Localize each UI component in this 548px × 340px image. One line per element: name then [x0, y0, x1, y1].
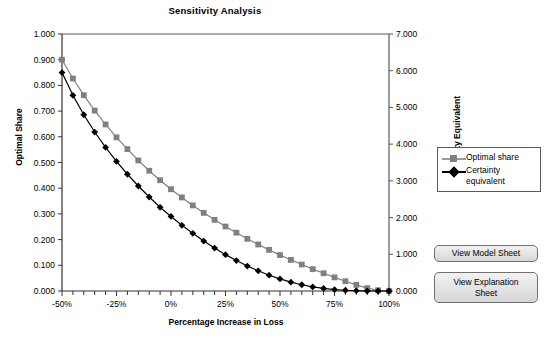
data-point-marker: [288, 279, 295, 286]
y-axis-right-tick-label: 3.000: [396, 176, 418, 186]
series-line: [62, 73, 389, 291]
data-point-marker: [168, 186, 174, 192]
sensitivity-analysis-chart: Sensitivity Analysis Optimal Share Certa…: [0, 0, 548, 340]
data-point-marker: [179, 195, 185, 201]
legend-item-optimal-share: Optimal share: [442, 152, 536, 164]
data-point-marker: [321, 270, 327, 276]
data-point-marker: [70, 76, 76, 82]
chart-legend: Optimal share Certainty equivalent: [437, 147, 541, 192]
y-axis-right-tick-label: 4.000: [396, 139, 418, 149]
legend-label-line2: equivalent: [466, 176, 505, 186]
data-point-marker: [353, 287, 360, 294]
y-axis-left-tick-label: 0.100: [34, 260, 56, 270]
data-point-marker: [157, 177, 163, 183]
data-point-marker: [309, 284, 316, 291]
data-point-marker: [266, 272, 273, 279]
data-point-marker: [255, 267, 262, 274]
view-model-sheet-button[interactable]: View Model Sheet: [434, 245, 538, 262]
legend-item-certainty-equivalent: Certainty equivalent: [442, 165, 536, 186]
data-point-marker: [92, 108, 98, 114]
x-axis-tick-label: 75%: [326, 299, 343, 309]
data-point-marker: [59, 69, 66, 76]
explanation-button-line1: View Explanation: [453, 277, 518, 288]
legend-label-optimal-share: Optimal share: [466, 152, 519, 163]
y-axis-right-tick-label: 0.000: [396, 286, 418, 296]
data-point-marker: [81, 92, 87, 98]
data-point-marker: [353, 282, 359, 288]
x-axis-tick-label: -50%: [52, 299, 72, 309]
data-point-marker: [299, 262, 305, 268]
data-point-marker: [298, 281, 305, 288]
y-axis-left-tick-label: 0.400: [34, 183, 56, 193]
data-point-marker: [125, 146, 131, 152]
data-point-marker: [244, 263, 251, 270]
explanation-button-line2: Sheet: [453, 288, 518, 299]
series-optimal-share: [59, 57, 392, 294]
data-point-marker: [222, 251, 229, 258]
data-point-marker: [266, 247, 272, 253]
y-axis-left-tick-label: 0.500: [34, 158, 56, 168]
y-axis-left-tick-label: 0.900: [34, 55, 56, 65]
data-point-marker: [135, 158, 141, 164]
y-axis-right-tick-label: 7.000: [396, 29, 418, 39]
data-point-marker: [212, 217, 218, 223]
data-point-marker: [277, 252, 283, 258]
data-point-marker: [244, 236, 250, 242]
y-axis-right-tick-label: 5.000: [396, 102, 418, 112]
legend-label-line1: Certainty: [466, 165, 500, 175]
x-axis-tick-label: 100%: [378, 299, 400, 309]
data-point-marker: [59, 57, 65, 63]
data-point-marker: [80, 111, 87, 118]
data-point-marker: [332, 274, 338, 280]
data-point-marker: [103, 122, 109, 128]
y-axis-left-tick-label: 1.000: [34, 29, 56, 39]
data-point-marker: [211, 245, 218, 252]
data-point-marker: [234, 230, 240, 236]
y-axis-right-tick-label: 2.000: [396, 213, 418, 223]
data-point-marker: [288, 257, 294, 263]
y-axis-left-tick-label: 0.200: [34, 235, 56, 245]
data-point-marker: [114, 134, 120, 140]
y-axis-left-tick-label: 0.000: [34, 286, 56, 296]
legend-label-certainty-equivalent: Certainty equivalent: [466, 165, 505, 186]
x-axis-tick-label: 50%: [271, 299, 288, 309]
y-axis-left-tick-label: 0.700: [34, 106, 56, 116]
data-point-marker: [201, 210, 207, 216]
data-point-marker: [343, 278, 349, 284]
legend-square-marker-icon: [442, 153, 466, 164]
data-point-marker: [310, 266, 316, 272]
data-point-marker: [331, 286, 338, 293]
view-explanation-sheet-button[interactable]: View Explanation Sheet: [434, 272, 538, 303]
y-axis-left-tick-label: 0.600: [34, 132, 56, 142]
x-axis-tick-label: -25%: [107, 299, 127, 309]
data-point-marker: [255, 242, 261, 248]
data-point-marker: [223, 224, 229, 230]
data-point-marker: [277, 275, 284, 282]
data-point-marker: [342, 287, 349, 294]
data-point-marker: [70, 92, 77, 99]
data-point-marker: [190, 203, 196, 209]
y-axis-left-tick-label: 0.800: [34, 80, 56, 90]
y-axis-left-tick-label: 0.300: [34, 209, 56, 219]
data-point-marker: [146, 168, 152, 174]
x-axis-tick-label: 25%: [217, 299, 234, 309]
series-certainty-equivalent: [59, 69, 393, 294]
y-axis-right-tick-label: 6.000: [396, 66, 418, 76]
legend-diamond-marker-icon: [442, 166, 466, 177]
x-axis-tick-label: 0%: [165, 299, 178, 309]
y-axis-right-tick-label: 1.000: [396, 249, 418, 259]
data-point-marker: [233, 257, 240, 264]
